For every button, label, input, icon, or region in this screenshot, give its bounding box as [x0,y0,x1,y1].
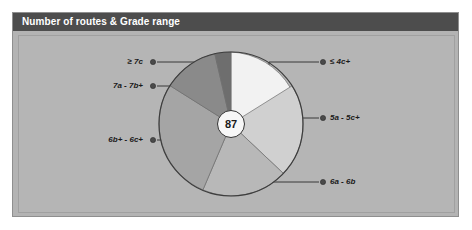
bullet-5a5c [320,115,325,120]
page-title: Number of routes & Grade range [22,16,180,27]
slice-label-5a-5c-plus: 5a - 5c+ [330,113,360,122]
screenshot-root: Number of routes & Grade range [0,0,472,230]
chart-card: Number of routes & Grade range [12,12,459,217]
slice-label-6b-plus-6c-plus: 6b+ - 6c+ [108,135,143,144]
slice-label-6a-6b: 6a - 6b [330,177,355,186]
chart-title-bar: Number of routes & Grade range [13,13,458,31]
bullet-7a7b [150,83,155,88]
slice-label-ge-7c: ≥ 7c [127,57,143,66]
bullet-6b6c [150,137,155,142]
pie-chart-plot-area: 87 ≥ 7c 7a - 7b+ 6b+ - 6c+ ≤ 4c+ 5a - 5c… [18,35,455,213]
slice-label-7a-7b-plus: 7a - 7b+ [113,81,143,90]
bullet-le4c [320,59,325,64]
center-total-value: 87 [216,118,246,130]
slice-label-le-4c-plus: ≤ 4c+ [330,57,350,66]
bullet-6a6b [320,179,325,184]
bullet-ge7c [150,59,155,64]
